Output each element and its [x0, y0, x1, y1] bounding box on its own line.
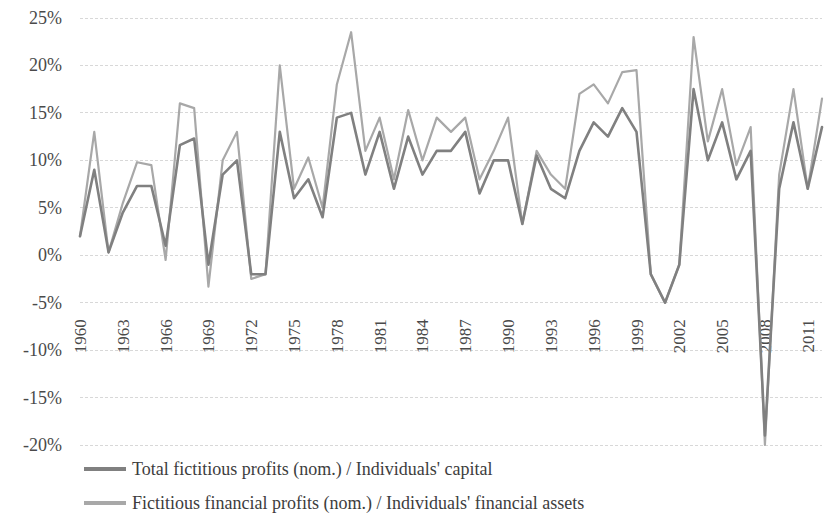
y-axis-tick-label: 10% — [29, 150, 62, 170]
y-axis-tick-label: 5% — [38, 198, 62, 218]
line-chart: 25%20%15%10%5%0%-5%-10%-15%-20% 19601963… — [0, 0, 825, 455]
x-axis-tick-label: 1990 — [499, 319, 518, 353]
x-axis-tick-label: 1987 — [456, 319, 475, 354]
y-axis-tick-label: 15% — [29, 103, 62, 123]
chart-legend: Total fictitious profits (nom.) / Indivi… — [0, 452, 825, 532]
y-axis-tick-label: -10% — [23, 340, 62, 360]
x-axis-tick-label: 1969 — [199, 319, 218, 353]
legend-item-total-fictitious-profits: Total fictitious profits (nom.) / Indivi… — [0, 452, 825, 486]
series-line-1 — [80, 89, 822, 435]
x-axis-tick-label: 1960 — [71, 319, 90, 353]
y-axis-tick-label: 20% — [29, 55, 62, 75]
x-axis-tick-label: 1972 — [242, 319, 261, 353]
series-line-2 — [80, 32, 822, 445]
chart-page: 25%20%15%10%5%0%-5%-10%-15%-20% 19601963… — [0, 0, 825, 532]
x-axis-tick-label: 1978 — [328, 319, 347, 353]
y-axis-labels-group: 25%20%15%10%5%0%-5%-10%-15%-20% — [23, 8, 62, 455]
x-axis-tick-label: 1993 — [542, 319, 561, 353]
x-axis-tick-label: 1963 — [114, 319, 133, 353]
gridlines-group — [80, 18, 822, 445]
y-axis-tick-label: -5% — [32, 293, 62, 313]
series-lines-group — [80, 32, 822, 445]
y-axis-tick-label: -15% — [23, 388, 62, 408]
y-axis-tick-label: 0% — [38, 245, 62, 265]
x-axis-tick-label: 2011 — [799, 319, 818, 352]
x-axis-tick-label: 2002 — [670, 319, 689, 353]
x-axis-labels-group: 1960196319661969197219751978198119841987… — [71, 319, 818, 354]
legend-label-series-1: Total fictitious profits (nom.) / Indivi… — [132, 459, 492, 480]
x-axis-tick-label: 2005 — [713, 319, 732, 353]
x-axis-tick-label: 1975 — [285, 319, 304, 353]
x-axis-tick-label: 1984 — [413, 319, 432, 354]
legend-label-series-2: Fictitious financial profits (nom.) / In… — [132, 493, 584, 514]
legend-item-fictitious-financial-profits: Fictitious financial profits (nom.) / In… — [0, 486, 825, 520]
y-axis-tick-label: 25% — [29, 8, 62, 28]
legend-swatch-series-1 — [84, 467, 126, 471]
chart-svg: 25%20%15%10%5%0%-5%-10%-15%-20% 19601963… — [0, 0, 825, 455]
x-axis-tick-label: 1999 — [628, 319, 647, 353]
x-axis-tick-label: 1981 — [371, 319, 390, 353]
x-axis-tick-label: 1996 — [585, 319, 604, 353]
legend-swatch-series-2 — [84, 501, 126, 505]
x-axis-tick-label: 1966 — [157, 319, 176, 353]
